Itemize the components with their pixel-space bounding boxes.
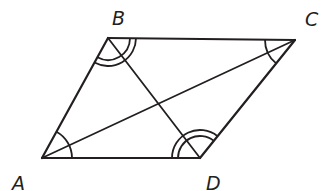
diagonals (42, 38, 295, 158)
angle-marks (56, 38, 276, 158)
vertex-labels: A B C D (10, 7, 319, 191)
vertex-label-c: C (305, 8, 319, 30)
side-cd (200, 40, 295, 158)
vertex-label-d: D (206, 172, 221, 191)
vertex-label-a: A (10, 172, 25, 191)
vertex-label-b: B (112, 7, 125, 29)
diagonal-ac (42, 40, 295, 158)
parallelogram-diagram: A B C D (0, 0, 330, 191)
diagonal-bd (108, 38, 200, 158)
side-ab (42, 38, 108, 158)
